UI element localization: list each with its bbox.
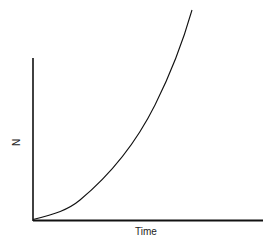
- y-axis-label: N: [11, 139, 22, 146]
- growth-curve: [33, 10, 192, 220]
- chart-plot: [0, 0, 272, 248]
- x-axis-label: Time: [0, 226, 272, 237]
